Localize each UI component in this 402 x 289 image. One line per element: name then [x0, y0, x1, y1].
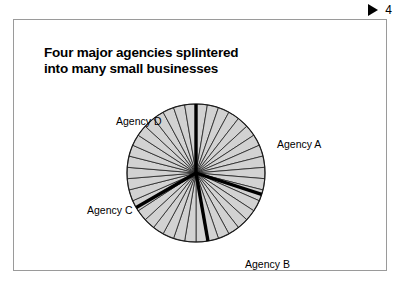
label-agency-c: Agency C [87, 204, 133, 216]
page-marker: 4 [368, 2, 392, 18]
label-agency-d: Agency D [116, 115, 162, 127]
pie-chart: Agency D Agency A Agency C Agency B [14, 20, 388, 272]
slide-frame: Four major agencies splintered into many… [13, 19, 387, 271]
page-number: 4 [385, 4, 392, 16]
pie-chart-svg [14, 20, 388, 272]
play-triangle-icon [368, 4, 378, 16]
label-agency-a: Agency A [277, 138, 321, 150]
label-agency-b: Agency B [245, 258, 290, 270]
